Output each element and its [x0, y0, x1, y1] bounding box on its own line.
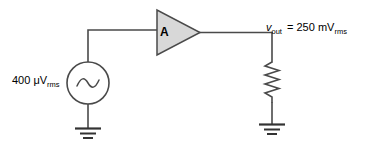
circuit-diagram: A 400 μVrms vout = 250 mVrms: [0, 0, 371, 147]
output-unit-prefix: m: [318, 21, 327, 33]
amplifier-label: A: [160, 26, 169, 38]
source-unit-subscript: rms: [47, 80, 60, 89]
output-value-number: 250: [297, 21, 315, 33]
output-voltage-label: vout = 250 mVrms: [266, 22, 347, 33]
ground-left-symbol: [75, 129, 101, 139]
ground-right-symbol: [259, 125, 285, 135]
source-value-number: 400: [12, 74, 30, 86]
resistor-zigzag: [265, 62, 279, 103]
output-symbol: v: [266, 21, 272, 33]
wire-amp-to-output-node: [200, 33, 272, 63]
output-unit-subscript: rms: [334, 27, 347, 36]
load-resistor-symbol: [265, 62, 279, 103]
output-wire-group: [200, 33, 272, 125]
wire-source-to-amp: [88, 30, 158, 62]
output-symbol-subscript: out: [272, 27, 282, 36]
ac-source-symbol: [67, 62, 109, 104]
source-unit: V: [40, 74, 47, 86]
source-value-label: 400 μVrms: [12, 75, 60, 86]
